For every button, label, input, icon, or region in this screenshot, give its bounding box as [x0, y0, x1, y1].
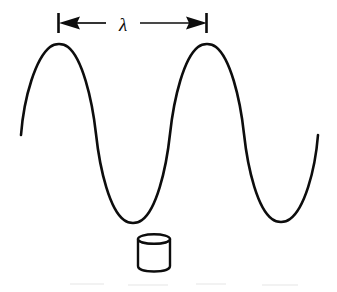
- lambda-symbol: λ: [118, 14, 127, 35]
- figure-root: λ: [0, 0, 337, 292]
- cylinder-icon: [138, 234, 170, 271]
- wavelength-diagram: λ: [0, 0, 337, 292]
